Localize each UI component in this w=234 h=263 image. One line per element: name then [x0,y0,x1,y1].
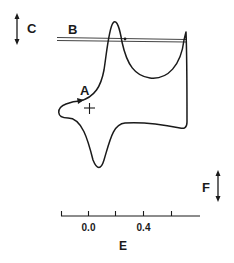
scale-bar-f [216,170,221,202]
direction-arrow-icon [77,98,84,104]
tick-label-0: 0.0 [82,222,96,233]
cyclic-voltammogram: C B A F 0.0 0.4 E [0,0,234,263]
cv-trace [59,22,187,168]
x-axis-label: E [119,239,127,253]
label-b: B [68,22,77,37]
x-axis [61,211,200,216]
origin-cross-icon [84,103,95,114]
tick-label-0-4: 0.4 [137,222,151,233]
scale-bar-c [15,13,20,45]
label-c: C [27,21,37,36]
label-f: F [202,180,210,195]
label-a: A [80,83,90,98]
